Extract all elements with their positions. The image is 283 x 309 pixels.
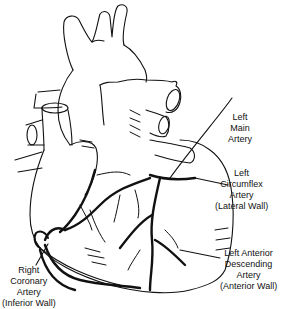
label-left-circumflex-artery: Left Circumflex Artery (Lateral Wall): [215, 168, 268, 212]
label-left-main-artery: Left Main Artery: [228, 112, 252, 145]
heart-diagram: Left Main Artery Left Circumflex Artery …: [0, 0, 283, 309]
label-right-coronary-artery: Right Coronary Artery (Inferior Wall): [2, 265, 56, 309]
label-left-anterior-descending-artery: Left Anterior Descending Artery (Anterio…: [220, 248, 277, 292]
